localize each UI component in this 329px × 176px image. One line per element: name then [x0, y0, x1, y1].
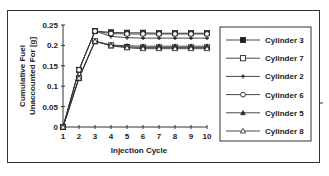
series-line — [63, 41, 207, 127]
y-tick-label: 0 — [54, 123, 59, 132]
open-circle-marker-icon — [173, 32, 178, 37]
legend-label: Cylinder 5 — [265, 109, 304, 118]
legend-label: Cylinder 8 — [265, 127, 304, 136]
filled-square-marker-icon — [240, 37, 245, 42]
open-circle-marker-icon — [241, 92, 246, 97]
x-tick-label: 7 — [157, 132, 162, 141]
open-circle-marker-icon — [93, 29, 98, 34]
series-line — [63, 41, 207, 127]
series-cylinder-6 — [61, 29, 210, 130]
open-circle-marker-icon — [141, 32, 146, 37]
legend: Cylinder 3Cylinder 7Cylinder 2Cylinder 6… — [220, 27, 323, 141]
x-tick-label: 10 — [203, 132, 212, 141]
x-tick-label: 1 — [61, 132, 66, 141]
line-chart: 00.050.10.150.20.2512345678910Injection … — [0, 0, 329, 176]
axes: 00.050.10.150.20.2512345678910Injection … — [18, 21, 212, 155]
x-tick-label: 9 — [189, 132, 194, 141]
y-tick-label: 0.1 — [47, 82, 59, 91]
series-cylinder-8 — [60, 39, 209, 129]
open-circle-marker-icon — [77, 67, 82, 72]
series-cylinder-2 — [61, 29, 209, 129]
x-tick-label: 3 — [93, 132, 98, 141]
legend-label: Cylinder 6 — [265, 91, 304, 100]
open-circle-marker-icon — [125, 32, 130, 37]
x-tick-label: 8 — [173, 132, 178, 141]
series-cylinder-7 — [60, 39, 209, 130]
open-circle-marker-icon — [205, 32, 210, 37]
series-line — [63, 31, 207, 127]
x-axis-title: Injection Cycle — [111, 146, 168, 155]
y-tick-label: 0.05 — [42, 103, 58, 112]
x-tick-label: 5 — [125, 132, 130, 141]
legend-label: Cylinder 7 — [265, 54, 304, 63]
open-circle-marker-icon — [109, 31, 114, 36]
open-square-marker-icon — [240, 56, 245, 61]
series-line — [63, 31, 207, 127]
open-circle-marker-icon — [189, 32, 194, 37]
y-tick-label: 0.15 — [42, 62, 58, 71]
y-tick-label: 0.25 — [42, 21, 58, 30]
x-tick-label: 2 — [77, 132, 82, 141]
y-axis-title: Unaccounted For [g] — [28, 37, 37, 116]
series-line — [63, 41, 207, 127]
y-axis-title: Cumulative Fuel — [18, 45, 27, 107]
series-cylinder-5 — [61, 39, 210, 129]
legend-label: Cylinder 3 — [265, 36, 304, 45]
open-circle-marker-icon — [157, 32, 162, 37]
x-tick-label: 4 — [109, 132, 114, 141]
x-tick-label: 6 — [141, 132, 146, 141]
series-cylinder-3 — [60, 29, 209, 130]
series-group — [60, 29, 209, 130]
y-tick-label: 0.2 — [47, 41, 59, 50]
legend-label: Cylinder 2 — [265, 72, 304, 81]
series-line — [63, 31, 207, 127]
